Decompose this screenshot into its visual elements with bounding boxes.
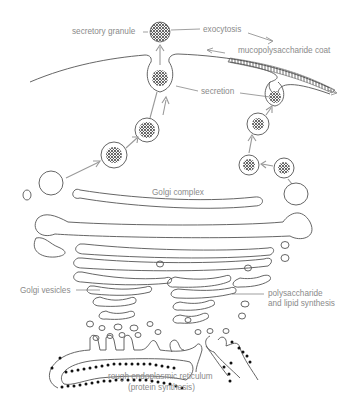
cell-membrane-left: [30, 55, 151, 82]
label-exocytosis: exocytosis: [203, 25, 241, 34]
label-rough-er: rough endoplasmic reticulum: [108, 372, 213, 381]
golgi-vesicle-large: [39, 171, 63, 195]
leader-secretion-left: [176, 86, 198, 91]
label-golgi-vesicles: Golgi vesicles: [20, 286, 71, 295]
mucopolysaccharide-coat: [228, 58, 335, 93]
label-secretion: secretion: [201, 87, 235, 96]
secretory-granule: [150, 22, 170, 42]
label-secretory-granule: secretory granule: [72, 27, 136, 36]
golgi-vesicle-small: [23, 190, 31, 200]
leader-exocytosis: [171, 29, 200, 30]
exocytosis-arrow: [248, 33, 273, 44]
coat-arrow: [207, 48, 225, 53]
golgi-vesicle-large: [284, 183, 308, 205]
label-golgi-complex: Golgi complex: [152, 188, 204, 197]
label-protein-synthesis: (protein synthesis): [128, 383, 195, 392]
label-polysaccharide: polysaccharide: [268, 289, 323, 298]
cell-membrane-inner: [230, 62, 330, 94]
cell-membrane-right: [169, 54, 330, 88]
secretion-diagram: secretory granule exocytosis mucopolysac…: [0, 0, 356, 396]
label-mucopolysaccharide-coat: mucopolysaccharide coat: [238, 46, 331, 55]
label-lipid-synthesis: and lipid synthesis: [268, 299, 335, 308]
